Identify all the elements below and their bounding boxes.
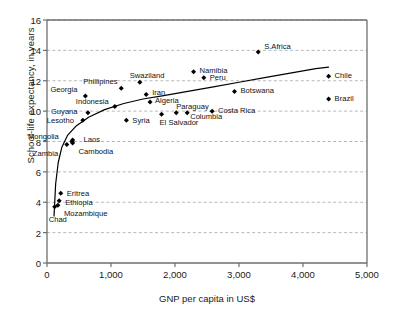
data-point-label: Indonesia: [76, 98, 109, 106]
data-point-label: Swaziland: [130, 72, 165, 80]
data-point-label: Zambia: [33, 150, 58, 158]
data-point-label: Mongolia: [28, 133, 59, 141]
data-point-label: Eritrea: [67, 190, 89, 198]
data-point-label: Guyana: [51, 108, 78, 116]
data-point-label: Brazil: [335, 95, 354, 103]
data-point-label: Syria: [132, 117, 149, 125]
data-point-label: Laos: [84, 136, 100, 144]
data-point-label: Costa Rica: [218, 107, 255, 115]
data-point-label: Paraguay: [176, 103, 209, 111]
data-point-label: Botswana: [241, 87, 274, 95]
data-point-label: Mozambique: [64, 210, 107, 218]
data-point-label: Chile: [335, 72, 352, 80]
data-point-label: Lesotho: [47, 117, 74, 125]
data-point-label: Phillipines: [83, 78, 117, 86]
data-point-label: Georgia: [50, 86, 77, 94]
data-point-label-layer: ChadMozambiqueEthiopiaEritreaZambiaCambo…: [0, 0, 400, 314]
scatter-chart-figure: School-life expectancy, in years GNP per…: [0, 0, 400, 314]
data-point-label: Peru: [210, 74, 226, 82]
data-point-label: Cambodia: [79, 148, 114, 156]
data-point-label: Ethiopia: [65, 199, 92, 207]
data-point-label: Algeria: [155, 97, 179, 105]
data-point-label: S.Africa: [264, 43, 291, 51]
